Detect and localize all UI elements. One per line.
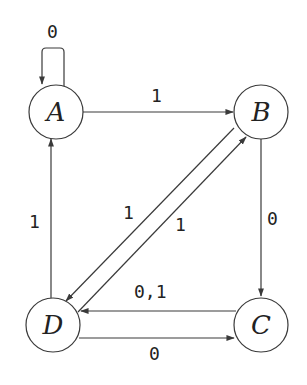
edge-label-b-d: 1: [123, 202, 134, 223]
node-label-b: B: [250, 97, 270, 127]
node-b: B: [234, 85, 288, 139]
edge-label-d-c: 0: [149, 343, 160, 364]
node-c: C: [234, 298, 288, 352]
edge-label-a-b: 1: [151, 85, 162, 106]
edge-label-a-a: 0: [47, 21, 58, 42]
node-label-c: C: [251, 310, 271, 340]
edge-label-b-c: 0: [267, 208, 278, 229]
edge-b-d: [66, 128, 234, 301]
edge-label-c-d: 0,1: [134, 281, 167, 302]
edge-label-d-b: 1: [175, 214, 186, 235]
node-label-a: A: [45, 97, 66, 127]
edge-label-d-a: 1: [29, 211, 40, 232]
edge-a-a: [42, 48, 64, 86]
node-a: A: [29, 85, 83, 139]
node-label-d: D: [42, 310, 64, 340]
node-d: D: [26, 298, 80, 352]
state-diagram: 0 1 0 1 1 0,1 0 1 A B C D: [0, 0, 307, 385]
